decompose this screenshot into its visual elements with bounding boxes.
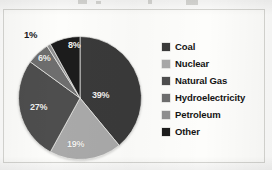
legend: CoalNuclearNatural GasHydroelectricityPe…	[162, 38, 245, 140]
slice-label-coal: 39%	[92, 90, 109, 100]
pie-graphic: 39% 19% 27% 6% 1% 8%	[18, 36, 142, 160]
legend-item-label: Nuclear	[175, 58, 209, 69]
legend-item-label: Hydroelectricity	[175, 92, 245, 103]
legend-swatch-icon	[162, 77, 170, 85]
slice-label-other: 8%	[68, 40, 81, 50]
slice-label-nuclear: 19%	[67, 139, 84, 149]
legend-swatch-icon	[162, 111, 170, 119]
slice-label-hydroelectricity: 6%	[38, 53, 51, 63]
legend-swatch-icon	[162, 128, 170, 136]
legend-item-label: Natural Gas	[175, 75, 227, 86]
cropped-title-remnant	[0, 0, 272, 8]
chart-frame: 39% 19% 27% 6% 1% 8% CoalNuclearNatural …	[3, 9, 265, 163]
pie-chart: 39% 19% 27% 6% 1% 8% CoalNuclearNatural …	[4, 10, 264, 162]
legend-item-hydroelectricity[interactable]: Hydroelectricity	[162, 89, 245, 106]
legend-item-nuclear[interactable]: Nuclear	[162, 55, 245, 72]
legend-swatch-icon	[162, 60, 170, 68]
slice-label-petroleum: 1%	[24, 29, 37, 40]
legend-item-label: Other	[175, 126, 200, 137]
slice-label-natural-gas: 27%	[30, 102, 47, 112]
legend-item-label: Petroleum	[175, 109, 221, 120]
legend-item-other[interactable]: Other	[162, 123, 245, 140]
legend-item-natural-gas[interactable]: Natural Gas	[162, 72, 245, 89]
legend-item-coal[interactable]: Coal	[162, 38, 245, 55]
legend-swatch-icon	[162, 94, 170, 102]
legend-item-petroleum[interactable]: Petroleum	[162, 106, 245, 123]
legend-swatch-icon	[162, 43, 170, 51]
legend-item-label: Coal	[175, 41, 195, 52]
